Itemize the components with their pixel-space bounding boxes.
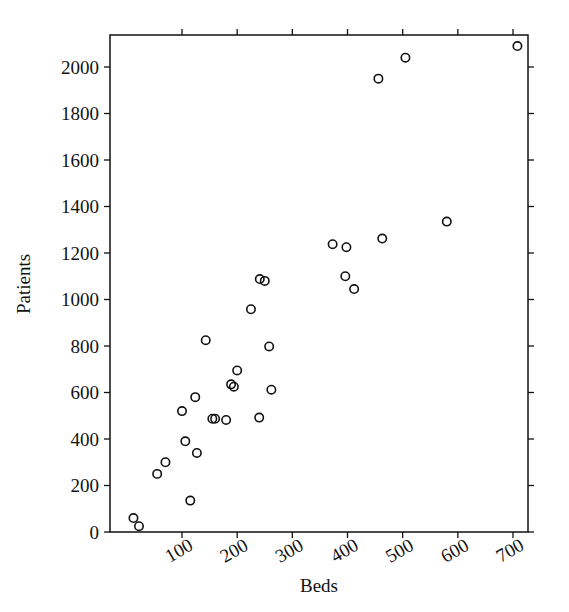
- x-tick-label-300: 300: [271, 534, 306, 566]
- data-point: [513, 42, 521, 50]
- x-tick-label-600: 600: [437, 534, 472, 566]
- data-point: [135, 522, 143, 530]
- y-axis-ticks: [104, 67, 534, 532]
- data-point: [233, 366, 241, 374]
- y-tick-label-1200: 1200: [61, 243, 99, 264]
- data-point: [342, 243, 350, 251]
- y-tick-label-600: 600: [71, 382, 100, 403]
- y-tick-label-2000: 2000: [61, 57, 99, 78]
- plot-border: [110, 35, 528, 532]
- data-point: [328, 240, 336, 248]
- plot-canvas: 100200300400500600700 020040060080010001…: [0, 0, 569, 612]
- x-axis-tick-labels: 100200300400500600700: [161, 534, 527, 566]
- scatter-plot-figure: 100200300400500600700 020040060080010001…: [0, 0, 569, 612]
- data-point: [265, 342, 273, 350]
- y-tick-label-400: 400: [71, 429, 100, 450]
- y-axis-tick-labels: 0200400600800100012001400160018002000: [61, 57, 99, 543]
- data-point: [161, 458, 169, 466]
- x-axis-title: Beds: [300, 575, 338, 596]
- data-point: [374, 74, 382, 82]
- data-point: [202, 336, 210, 344]
- data-point: [153, 470, 161, 478]
- data-point: [267, 386, 275, 394]
- data-point: [193, 449, 201, 457]
- y-tick-label-1000: 1000: [61, 289, 99, 310]
- y-tick-label-200: 200: [71, 475, 100, 496]
- y-tick-label-1800: 1800: [61, 103, 99, 124]
- y-axis-title: Patients: [13, 254, 34, 314]
- data-point: [178, 407, 186, 415]
- data-point: [186, 496, 194, 504]
- data-point: [129, 514, 137, 522]
- x-axis-ticks: [182, 29, 513, 538]
- y-tick-label-800: 800: [71, 336, 100, 357]
- data-point: [378, 234, 386, 242]
- data-point: [256, 275, 264, 283]
- data-points: [129, 42, 521, 531]
- data-point: [247, 305, 255, 313]
- data-point: [401, 54, 409, 62]
- data-point: [191, 393, 199, 401]
- data-point: [443, 217, 451, 225]
- y-tick-label-1400: 1400: [61, 196, 99, 217]
- data-point: [255, 413, 263, 421]
- data-point: [181, 437, 189, 445]
- data-point: [261, 277, 269, 285]
- x-tick-label-700: 700: [492, 534, 527, 566]
- data-point: [350, 285, 358, 293]
- data-point: [341, 272, 349, 280]
- y-tick-label-1600: 1600: [61, 150, 99, 171]
- x-tick-label-400: 400: [327, 534, 362, 566]
- y-tick-label-0: 0: [90, 522, 100, 543]
- x-tick-label-500: 500: [382, 534, 417, 566]
- x-tick-label-100: 100: [161, 534, 196, 566]
- x-tick-label-200: 200: [216, 534, 251, 566]
- plot-frame: [110, 35, 528, 532]
- data-point: [222, 416, 230, 424]
